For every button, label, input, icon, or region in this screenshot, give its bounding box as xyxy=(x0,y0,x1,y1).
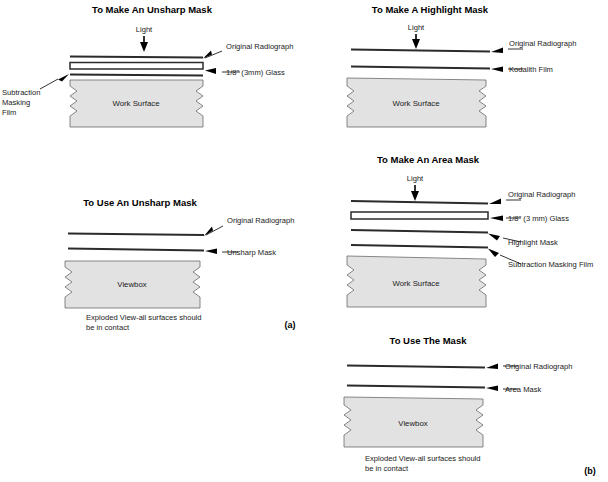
masking-technique-diagram: To Make An Unsharp Mask Light Original R… xyxy=(0,0,608,482)
label-subtraction-masking-film: Subtraction Masking Film xyxy=(508,260,593,269)
light-label: Light xyxy=(136,25,153,34)
layer-original-radiograph xyxy=(68,234,204,236)
label-subtraction-masking-film-line2: Masking xyxy=(2,98,30,107)
label-viewbox: Viewbox xyxy=(117,280,146,289)
label-glass: 1/8" (3 mm) Glass xyxy=(508,214,569,223)
figure-root: To Make An Unsharp Mask Light Original R… xyxy=(0,0,608,482)
exploded-view-caption-line1: Exploded View-all surfaces should xyxy=(365,454,481,463)
exploded-view-caption-line1: Exploded View-all surfaces should xyxy=(86,313,202,322)
panel-title: To Make A Highlight Mask xyxy=(372,4,489,15)
label-original-radiograph: Original Radiograph xyxy=(227,216,295,225)
label-work-surface: Work Surface xyxy=(112,99,159,108)
label-unsharp-mask: Unsharp Mask xyxy=(227,248,276,257)
exploded-view-caption-line2: be in contact xyxy=(86,323,130,332)
exploded-view-caption-line2: be in contact xyxy=(365,464,409,473)
light-label: Light xyxy=(407,174,424,183)
layer-glass xyxy=(351,212,488,219)
label-glass: 1/8" (3mm) Glass xyxy=(226,68,285,77)
layer-subtraction-masking-film xyxy=(70,75,203,76)
label-subtraction-masking-film-line3: Film xyxy=(2,108,16,117)
label-kodalith-film: Kodalith Film xyxy=(509,65,553,74)
label-original-radiograph: Original Radiograph xyxy=(509,39,577,48)
light-label: Light xyxy=(408,23,425,32)
layer-original-radiograph xyxy=(70,57,203,58)
panel-title: To Use An Unsharp Mask xyxy=(83,197,197,208)
label-work-surface: Work Surface xyxy=(392,279,439,288)
label-work-surface: Work Surface xyxy=(392,99,439,108)
layer-glass xyxy=(70,63,203,70)
label-area-mask: Area Mask xyxy=(505,385,541,394)
figure-label-b: (b) xyxy=(584,466,596,476)
label-original-radiograph: Original Radiograph xyxy=(508,190,576,199)
label-original-radiograph: Original Radiograph xyxy=(226,42,294,51)
label-highlight-mask: Highlight Mask xyxy=(508,238,558,247)
label-subtraction-masking-film-line1: Subtraction xyxy=(2,88,40,97)
label-viewbox: Viewbox xyxy=(398,419,427,428)
panel-title: To Make An Unsharp Mask xyxy=(92,4,213,15)
panel-title: To Use The Mask xyxy=(390,335,468,346)
figure-label-a: (a) xyxy=(285,320,296,330)
panel-title: To Make An Area Mask xyxy=(377,154,480,165)
label-original-radiograph: Original Radiograph xyxy=(505,362,573,371)
